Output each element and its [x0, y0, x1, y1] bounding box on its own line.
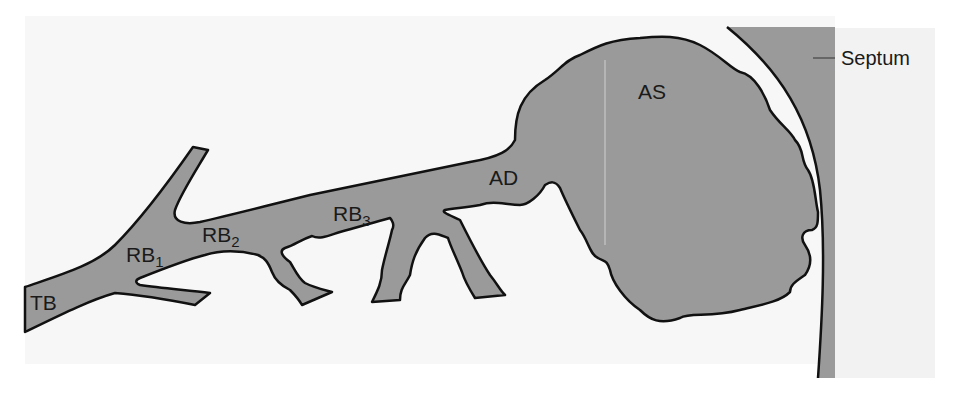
label-ad: AD — [489, 167, 518, 188]
airway-diagram — [0, 0, 953, 403]
label-septum: Septum — [841, 48, 910, 68]
label-as: AS — [638, 81, 666, 102]
label-rb1-base: RB — [126, 243, 155, 266]
label-rb2-base: RB — [202, 223, 231, 246]
label-rb3: RB3 — [333, 203, 371, 228]
label-rb2: RB2 — [202, 224, 240, 249]
label-rb3-base: RB — [333, 202, 362, 225]
label-rb1: RB1 — [126, 244, 164, 269]
label-rb1-sub: 1 — [155, 253, 163, 270]
label-rb3-sub: 3 — [362, 212, 370, 229]
label-rb2-sub: 2 — [231, 233, 239, 250]
right-panel — [835, 28, 935, 378]
label-tb: TB — [30, 292, 57, 313]
